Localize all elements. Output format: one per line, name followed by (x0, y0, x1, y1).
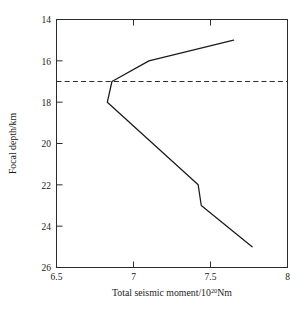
y-tick-label: 16 (42, 57, 52, 67)
x-axis-title-suffix: Nm (217, 287, 232, 298)
y-tick-label: 24 (42, 222, 52, 232)
y-axis-ticks (57, 20, 63, 268)
chart-svg: 14 16 18 20 22 24 26 6.5 7 7.5 8 Total s… (0, 0, 306, 310)
y-tick-labels: 14 16 18 20 22 24 26 (42, 15, 52, 273)
x-tick-label: 7 (131, 272, 136, 282)
x-tick-label: 6.5 (51, 272, 63, 282)
plot-frame (57, 20, 288, 268)
x-axis-title: Total seismic moment/1020Nm (112, 287, 232, 298)
y-axis-title: Focal depth/km (7, 113, 18, 175)
x-tick-labels: 6.5 7 7.5 8 (51, 272, 291, 282)
x-axis-ticks (57, 262, 288, 268)
x-tick-label: 8 (285, 272, 290, 282)
seismic-moment-curve (107, 40, 252, 247)
y-tick-label: 18 (42, 98, 52, 108)
x-tick-label: 7.5 (205, 272, 217, 282)
seismic-moment-depth-chart: 14 16 18 20 22 24 26 6.5 7 7.5 8 Total s… (0, 0, 306, 310)
x-axis-title-main: Total seismic moment/10 (112, 287, 211, 298)
y-tick-label: 14 (42, 15, 52, 25)
y-tick-label: 22 (42, 181, 52, 191)
y-tick-label: 20 (42, 139, 52, 149)
x-axis-ticks-top (134, 20, 211, 26)
